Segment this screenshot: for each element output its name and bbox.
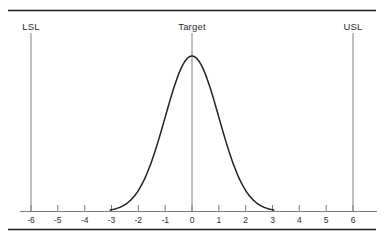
tick-label: -4	[81, 215, 89, 225]
tick-label: 4	[297, 215, 302, 225]
tick-label: -3	[108, 215, 116, 225]
tick-label: 5	[324, 215, 329, 225]
tick-label: 0	[190, 215, 195, 225]
process-capability-figure: -6 -5 -4 -3 -2 -1 0 1 2 3 4 5 6 LSL Targ…	[0, 0, 387, 239]
tick-label: -6	[27, 215, 35, 225]
usl-label: USL	[343, 21, 362, 32]
lsl-label: LSL	[22, 21, 40, 32]
tick-label: -2	[135, 215, 143, 225]
tick-label: 2	[243, 215, 248, 225]
normal-distribution-chart: -6 -5 -4 -3 -2 -1 0 1 2 3 4 5 6 LSL Targ…	[0, 0, 387, 239]
tick-label: -5	[54, 215, 62, 225]
tick-label: -1	[161, 215, 169, 225]
target-label: Target	[178, 21, 206, 32]
x-axis-tick-labels: -6 -5 -4 -3 -2 -1 0 1 2 3 4 5 6	[27, 215, 355, 225]
tick-label: 6	[351, 215, 356, 225]
tick-label: 1	[216, 215, 221, 225]
tick-label: 3	[270, 215, 275, 225]
